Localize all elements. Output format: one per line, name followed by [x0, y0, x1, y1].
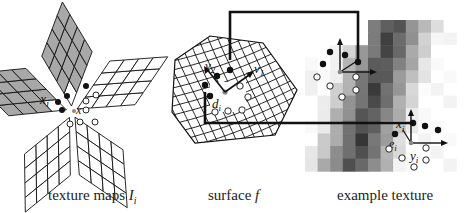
open-sample-point: [314, 74, 320, 80]
texture-pixel: [343, 33, 356, 46]
texture-pixel: [444, 33, 457, 46]
filled-sample-point: [422, 123, 428, 129]
texture-pixel: [406, 96, 419, 109]
texture-pixel: [418, 70, 431, 83]
texture-pixel: [355, 133, 368, 146]
texture-pixel: [418, 96, 431, 109]
texture-pixel: [355, 159, 368, 172]
texture-pixel: [368, 159, 381, 172]
frame-center-point: [338, 70, 343, 75]
open-sample-point: [92, 119, 98, 125]
caption-texture-maps: texture maps Ii: [48, 187, 137, 206]
texture-pixel: [381, 108, 394, 121]
texture-pixel: [305, 159, 318, 172]
texture-pixel: [368, 33, 381, 46]
open-sample-point: [83, 107, 89, 113]
texture-pixel: [418, 108, 431, 121]
texture-pixel: [444, 96, 457, 109]
filled-sample-point: [392, 131, 398, 137]
example-texture-image: [305, 20, 457, 172]
texture-pixel: [381, 20, 394, 33]
open-sample-point: [93, 92, 99, 98]
open-sample-point: [77, 119, 83, 125]
label-v2: v2: [205, 58, 216, 75]
texture-pixel: [330, 159, 343, 172]
filled-sample-point: [55, 99, 61, 105]
open-sample-point: [327, 83, 333, 89]
texture-pixel: [381, 159, 394, 172]
texture-pixel: [444, 133, 457, 146]
texture-pixel: [444, 45, 457, 58]
filled-sample-point: [83, 83, 89, 89]
open-sample-point: [411, 164, 417, 170]
texture-pixel: [368, 20, 381, 33]
open-sample-point: [423, 145, 429, 151]
texture-pixel: [444, 146, 457, 159]
texture-pixel: [318, 96, 331, 109]
texture-pixel: [393, 96, 406, 109]
texture-pixel: [368, 83, 381, 96]
texture-pixel: [305, 83, 318, 96]
texture-pixel: [444, 58, 457, 71]
label-x: x: [75, 103, 82, 117]
surface-grid-line: [148, 22, 319, 85]
surface-grid-line: [148, 121, 319, 184]
filled-sample-point: [435, 127, 441, 133]
caption-surface: surface f: [208, 187, 259, 204]
texture-pixel: [431, 20, 444, 33]
filled-sample-point: [227, 67, 233, 73]
filled-sample-point: [410, 120, 416, 126]
texture-pixel: [393, 58, 406, 71]
surface-grid-line: [148, 0, 319, 40]
open-sample-point: [225, 108, 231, 114]
texture-pixel: [318, 20, 331, 33]
texture-map-2: [42, 2, 92, 106]
texture-pixel: [418, 33, 431, 46]
open-sample-point: [353, 87, 359, 93]
texture-pixel: [330, 133, 343, 146]
texture-pixel: [318, 146, 331, 159]
texture-pixel: [305, 20, 318, 33]
texture-pixel: [406, 70, 419, 83]
open-sample-point: [239, 107, 245, 113]
surface-grid-line: [148, 130, 319, 193]
open-sample-point: [386, 146, 392, 152]
texture-pixel: [406, 83, 419, 96]
texture-maps-diagram: [0, 2, 168, 212]
texture-pixel: [406, 33, 419, 46]
frame-center-point: [409, 141, 414, 146]
texture-pixel: [330, 58, 343, 71]
open-sample-point: [245, 94, 251, 100]
surface-grid-line: [148, 0, 319, 58]
texture-pixel: [343, 146, 356, 159]
texture-pixel: [381, 58, 394, 71]
filled-sample-point: [59, 107, 65, 113]
texture-pixel: [381, 33, 394, 46]
texture-pixel: [393, 20, 406, 33]
texture-pixel: [431, 45, 444, 58]
texture-pixel: [444, 108, 457, 121]
open-sample-point: [353, 74, 359, 80]
surface-grid-line: [148, 157, 319, 213]
texture-pixel: [330, 146, 343, 159]
texture-pixel: [305, 146, 318, 159]
texture-pixel: [318, 159, 331, 172]
surface-grid-line: [148, 4, 319, 67]
texture-pixel: [355, 146, 368, 159]
texture-pixel: [330, 108, 343, 121]
texture-pixel: [431, 159, 444, 172]
texture-pixel: [444, 70, 457, 83]
texture-pixel: [343, 20, 356, 33]
surface-grid-line: [148, 0, 319, 49]
texture-pixel: [418, 58, 431, 71]
open-sample-point: [339, 94, 345, 100]
texture-pixel: [431, 96, 444, 109]
texture-pixel: [431, 70, 444, 83]
texture-pixel: [343, 159, 356, 172]
texture-pixel: [444, 159, 457, 172]
texture-pixel: [418, 45, 431, 58]
texture-pixel: [381, 45, 394, 58]
texture-pixel: [393, 70, 406, 83]
filled-sample-point: [320, 61, 326, 67]
texture-pixel: [368, 45, 381, 58]
